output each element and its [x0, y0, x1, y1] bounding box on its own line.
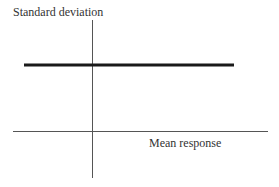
plot-area [0, 0, 279, 187]
